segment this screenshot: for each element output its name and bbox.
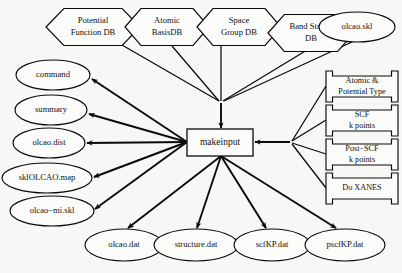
output-node-olcao-mi-skl-label: olcao−mi.skl xyxy=(30,205,75,215)
option-panel-scf-k-points[interactable]: SCFk points xyxy=(326,105,398,136)
option-panel-do-xanes-label: Do XANES xyxy=(342,183,382,192)
db-node-space-group-db[interactable]: SpaceGroup DB xyxy=(197,9,281,46)
edge-makeinput-to-olcao-dist xyxy=(87,142,187,143)
output-node-pscfkp-dat[interactable]: pscfKP.dat xyxy=(305,229,385,261)
process-node-makeinput[interactable]: makeinput xyxy=(187,129,253,156)
output-node-olcao-dat[interactable]: olcao.dat xyxy=(85,229,163,261)
db-node-atomic-basisdb-label: Atomic xyxy=(154,15,180,25)
output-node-olcao-dist-label: olcao.dist xyxy=(32,137,66,147)
option-panel-atomic-potential-type-label: Atomic & xyxy=(346,76,380,85)
input-node-olcao-skl[interactable]: olcao.skl xyxy=(319,12,395,42)
db-node-space-group-db-label: Space xyxy=(229,15,250,25)
output-node-structure-dat[interactable]: structure.dat xyxy=(154,229,238,261)
option-panel-post-scf-k-points-label: k points xyxy=(349,155,375,164)
output-node-scfkp-dat[interactable]: scfKP.dat xyxy=(234,229,310,261)
output-node-command[interactable]: command xyxy=(16,60,90,90)
makeinput-flow-diagram: PotentialFunction DBAtomicBasisDBSpaceGr… xyxy=(0,0,402,273)
option-panel-atomic-potential-type[interactable]: Atomic &Potential Type xyxy=(326,71,398,102)
output-node-scfkp-dat-label: scfKP.dat xyxy=(256,239,289,249)
output-node-olcao-mi-skl[interactable]: olcao−mi.skl xyxy=(10,196,94,226)
output-node-summary-label: summary xyxy=(35,104,68,114)
input-node-olcao-skl-label: olcao.skl xyxy=(342,21,373,31)
flow-diagram-canvas: PotentialFunction DBAtomicBasisDBSpaceGr… xyxy=(0,0,402,273)
option-panel-do-xanes[interactable]: Do XANES xyxy=(326,173,398,204)
output-node-olcao-dat-label: olcao.dat xyxy=(108,239,140,249)
process-node-makeinput-label: makeinput xyxy=(200,137,240,147)
option-panel-post-scf-k-points-label: Post−SCF xyxy=(345,144,379,153)
output-node-olcao-dist[interactable]: olcao.dist xyxy=(13,128,85,158)
db-node-potential-function-db-label: Potential xyxy=(78,15,109,25)
output-node-command-label: command xyxy=(36,69,71,79)
option-panel-atomic-potential-type-label: Potential Type xyxy=(338,87,386,96)
db-node-space-group-db-label: Group DB xyxy=(221,27,257,37)
output-node-structure-dat-label: structure.dat xyxy=(175,239,218,249)
option-panel-scf-k-points-label: SCF xyxy=(355,110,370,119)
db-node-potential-function-db-label: Function DB xyxy=(71,27,116,37)
db-node-band-struct-db-label: DB xyxy=(305,33,317,43)
option-panel-post-scf-k-points[interactable]: Post−SCFk points xyxy=(326,139,398,170)
output-node-sklolcao-map[interactable]: sklOLCAO.map xyxy=(2,163,92,193)
output-node-pscfkp-dat-label: pscfKP.dat xyxy=(327,239,365,249)
output-node-sklolcao-map-label: sklOLCAO.map xyxy=(19,172,76,182)
option-panel-scf-k-points-label: k points xyxy=(349,121,375,130)
output-node-summary[interactable]: summary xyxy=(15,95,87,125)
db-node-atomic-basisdb-label: BasisDB xyxy=(152,27,183,37)
